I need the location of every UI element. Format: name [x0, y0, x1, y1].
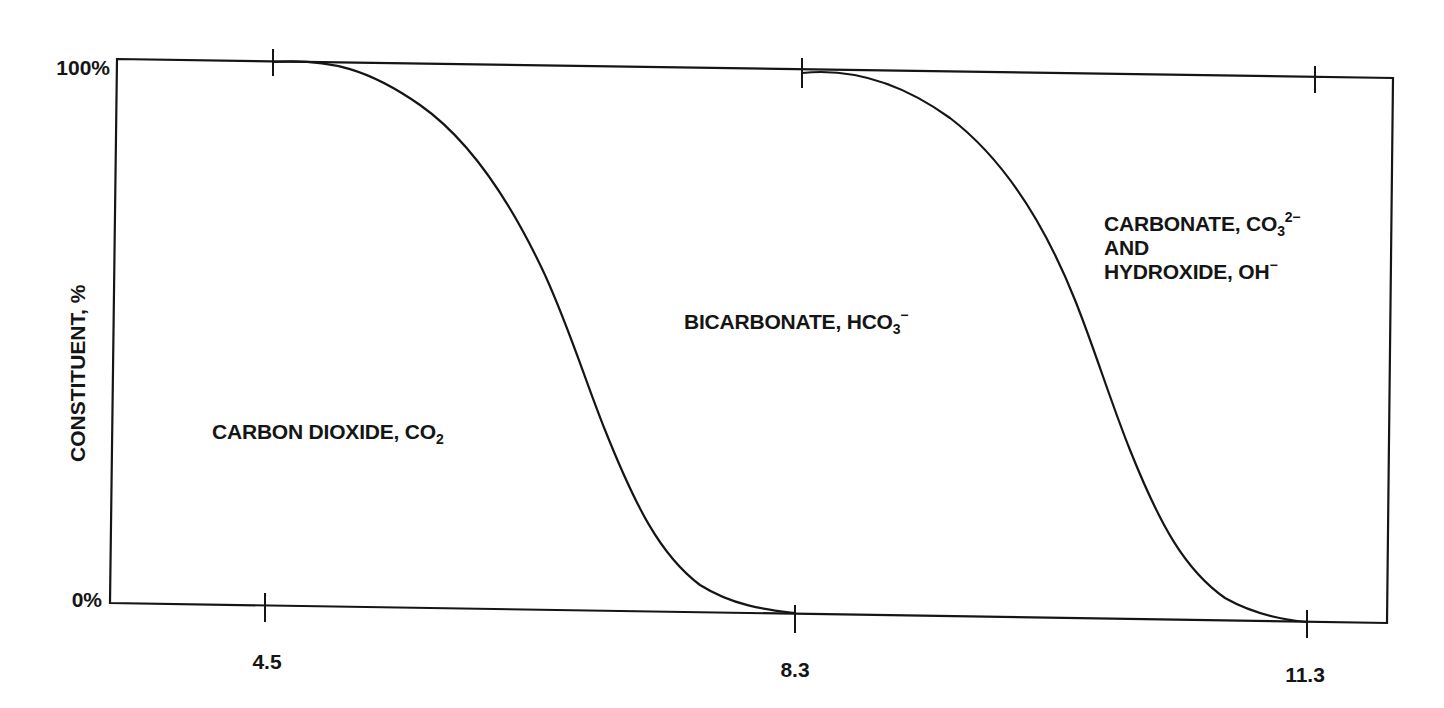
hco3-text: BICARBONATE, HCO: [684, 310, 893, 333]
chart-frame: [110, 59, 1393, 623]
co3-text: CARBONATE, CO: [1104, 212, 1277, 235]
curve-bicarbonate-carbonate: [802, 72, 1307, 622]
region-label-bicarbonate: BICARBONATE, HCO3−: [684, 310, 908, 334]
co3-line-3: HYDROXIDE, OH−: [1104, 260, 1300, 284]
co3-subscript: 3: [1277, 223, 1285, 239]
x-tick-8-3: 8.3: [780, 658, 809, 682]
y-tick-100: 100%: [44, 56, 110, 80]
x-tick-4-5: 4.5: [252, 650, 281, 674]
hco3-superscript: −: [900, 307, 908, 323]
region-label-carbon-dioxide: CARBON DIOXIDE, CO2: [212, 420, 444, 444]
co2-subscript: 2: [436, 431, 444, 447]
chart-plot-area: [0, 0, 1444, 708]
curve-co2-bicarbonate: [273, 61, 795, 613]
hco3-subscript: 3: [893, 321, 901, 337]
co2-text: CARBON DIOXIDE, CO: [212, 420, 436, 443]
co3-superscript: 2−: [1285, 209, 1301, 225]
x-tick-11-3: 11.3: [1285, 663, 1325, 687]
y-axis-label: CONSTITUENT, %: [66, 285, 90, 462]
oh-text: HYDROXIDE, OH: [1104, 260, 1269, 283]
region-label-carbonate-hydroxide: CARBONATE, CO32− AND HYDROXIDE, OH−: [1104, 212, 1300, 284]
oh-superscript: −: [1269, 257, 1277, 273]
y-tick-0: 0%: [44, 588, 102, 612]
co3-line-1: CARBONATE, CO32−: [1104, 212, 1300, 236]
